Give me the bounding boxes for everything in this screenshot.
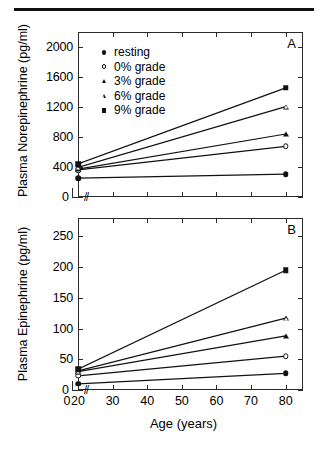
datapoint-circle-filled: [283, 171, 289, 177]
y-tick: [78, 267, 83, 268]
x-tick-label: 20: [71, 394, 85, 408]
x-tick-top: [182, 32, 183, 37]
y-tick-label: 100: [53, 322, 73, 336]
y-tick-right: [298, 167, 303, 168]
datapoint-circle-filled: [283, 371, 289, 377]
legend-item-9--grade: 9% grade: [98, 103, 165, 118]
x-tick-top: [147, 218, 148, 223]
x-tick-label: 40: [140, 394, 154, 408]
y-tick-right: [298, 390, 303, 391]
marker-tri-filled: [102, 79, 106, 83]
y-tick-label: 250: [53, 229, 73, 243]
legend-item-label: resting: [114, 45, 150, 59]
series-lines: [78, 218, 303, 390]
y-tick: [78, 359, 83, 360]
legend-marker-icon: [98, 46, 110, 58]
x-tick-top: [113, 32, 114, 37]
panel-b-origin-stub-horizontal: [72, 390, 80, 391]
x-tick-top: [182, 218, 183, 223]
y-tick: [78, 137, 83, 138]
y-tick: [78, 298, 83, 299]
x-tick-bottom: [147, 192, 148, 197]
x-tick-top: [286, 218, 287, 223]
legend-marker-icon: [98, 104, 110, 116]
x-tick-top: [78, 218, 79, 223]
legend-marker-icon: [98, 75, 110, 87]
x-tick-label: 30: [106, 394, 120, 408]
panel-a-origin-stub-horizontal: [72, 197, 80, 198]
y-tick: [78, 167, 83, 168]
legend-item-label: 3% grade: [114, 74, 165, 88]
datapoint-square-filled: [283, 85, 289, 91]
x-tick-label: 60: [210, 394, 224, 408]
x-tick-bottom: [113, 385, 114, 390]
series-line-resting: [78, 174, 286, 178]
panel-a-origin-zero-label: 0: [62, 190, 69, 204]
y-tick-right: [298, 329, 303, 330]
y-tick-label: 200: [53, 260, 73, 274]
panel-a-y-axis-title: Plasma Norepinephrine (pg/ml): [16, 32, 30, 197]
datapoint-square-filled: [283, 267, 289, 273]
datapoint-tri-filled: [283, 333, 289, 338]
series-line-3--grade: [78, 134, 286, 169]
panel-b-data-layer: [78, 218, 303, 390]
y-tick-right: [298, 107, 303, 108]
y-tick-right: [298, 267, 303, 268]
legend-item-3--grade: 3% grade: [98, 74, 165, 89]
y-tick-right: [298, 236, 303, 237]
datapoint-tri-open: [283, 104, 289, 109]
series-line-6--grade: [78, 318, 286, 371]
y-tick: [78, 236, 83, 237]
legend-item-resting: resting: [98, 45, 165, 60]
x-tick-label: 50: [175, 394, 189, 408]
y-tick: [78, 77, 83, 78]
x-tick-bottom: [286, 385, 287, 390]
legend-marker-icon: [98, 61, 110, 73]
datapoint-square-filled: [75, 366, 81, 372]
legend-item-label: 9% grade: [114, 103, 165, 117]
y-tick: [78, 107, 83, 108]
x-tick-top: [251, 218, 252, 223]
x-tick-top: [216, 32, 217, 37]
x-tick-top: [251, 32, 252, 37]
y-tick-right: [298, 359, 303, 360]
y-tick-right: [298, 298, 303, 299]
y-tick-label: 150: [53, 291, 73, 305]
panel-a: A 400800120016002000 resting0% grade3% g…: [78, 32, 303, 197]
y-tick-right: [298, 137, 303, 138]
y-tick-label: 2000: [46, 40, 73, 54]
x-tick-label: 80: [279, 394, 293, 408]
x-tick-bottom: [147, 385, 148, 390]
datapoint-tri-filled: [283, 132, 289, 137]
series-line-resting: [78, 373, 286, 383]
y-tick-right: [298, 197, 303, 198]
y-tick-label: 400: [53, 160, 73, 174]
x-tick-top: [216, 218, 217, 223]
x-tick-bottom: [113, 192, 114, 197]
legend-item-0--grade: 0% grade: [98, 60, 165, 75]
figure-container: A 400800120016002000 resting0% grade3% g…: [0, 0, 327, 461]
marker-circle-filled: [102, 50, 107, 55]
x-tick-label: 70: [244, 394, 258, 408]
legend-marker-icon: [98, 90, 110, 102]
x-axis-title: Age (years): [0, 416, 327, 431]
y-tick: [78, 47, 83, 48]
y-tick: [78, 329, 83, 330]
datapoint-tri-open: [283, 316, 289, 321]
datapoint-circle-filled: [75, 176, 81, 182]
x-tick-bottom: [251, 192, 252, 197]
legend: resting0% grade3% grade6% grade9% grade: [98, 45, 165, 118]
x-tick-label: 0: [64, 394, 71, 408]
legend-item-label: 6% grade: [114, 89, 165, 103]
legend-item-6--grade: 6% grade: [98, 89, 165, 104]
marker-circle-open: [102, 64, 107, 69]
panel-a-axis-break-symbol: //: [84, 189, 88, 203]
marker-tri-open: [102, 94, 106, 98]
x-tick-top: [113, 218, 114, 223]
x-tick-top: [78, 32, 79, 37]
x-tick-bottom: [286, 192, 287, 197]
x-tick-top: [147, 32, 148, 37]
marker-square-filled: [102, 108, 107, 113]
legend-item-label: 0% grade: [114, 60, 165, 74]
x-tick-top: [286, 32, 287, 37]
